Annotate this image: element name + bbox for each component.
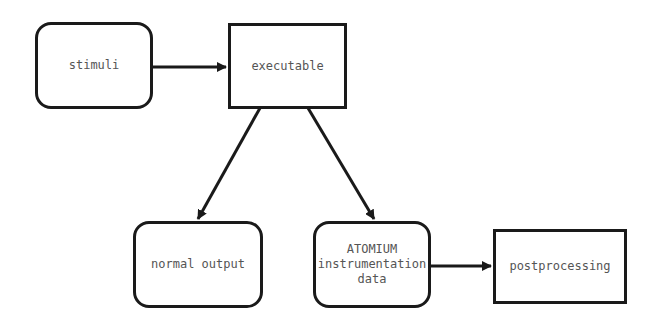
node-stimuli-label: stimuli (69, 58, 120, 73)
node-executable: executable (228, 23, 347, 109)
edge-executable-to-atomium (308, 108, 374, 219)
node-postprocessing: postprocessing (493, 229, 627, 304)
node-normal-output: normal output (133, 221, 263, 308)
node-postprocessing-label: postprocessing (509, 259, 610, 274)
node-stimuli: stimuli (35, 22, 153, 109)
node-atomium-label-line3: data (358, 272, 387, 287)
node-atomium-label-line1: ATOMIUM (347, 242, 398, 257)
node-executable-label: executable (251, 59, 323, 74)
node-atomium-label-line2: instrumentation (318, 257, 426, 272)
node-atomium: ATOMIUM instrumentation data (313, 221, 431, 308)
node-normal-output-label: normal output (151, 257, 245, 272)
edge-executable-to-normal-output (198, 108, 260, 219)
